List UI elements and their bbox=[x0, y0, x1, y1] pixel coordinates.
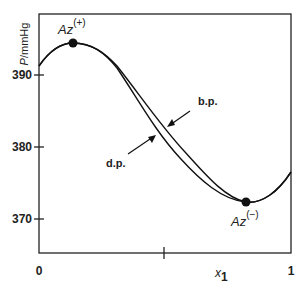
chart: 390 380 370 P/mmHg 0 1 x1 Az(+) Az(−) b.… bbox=[0, 0, 303, 289]
az-minus-label: Az(−) bbox=[230, 209, 259, 229]
y-tick-380: 380 bbox=[12, 140, 32, 154]
x-tick-1: 1 bbox=[288, 264, 295, 278]
az-plus-point bbox=[69, 39, 78, 48]
arrow-head-icon bbox=[167, 119, 175, 127]
bp-label: b.p. bbox=[198, 95, 218, 107]
dew-point-curve bbox=[39, 43, 291, 202]
az-minus-point bbox=[242, 198, 251, 207]
x-axis-label: x1 bbox=[214, 266, 228, 284]
dp-label: d.p. bbox=[106, 157, 126, 169]
dp-annotation: d.p. bbox=[106, 135, 156, 169]
y-tick-390: 390 bbox=[12, 68, 32, 82]
y-tick-370: 370 bbox=[12, 212, 32, 226]
bubble-point-curve bbox=[39, 43, 291, 202]
x-tick-0: 0 bbox=[36, 264, 43, 278]
y-axis-label: P/mmHg bbox=[18, 23, 30, 66]
az-plus-label: Az(+) bbox=[57, 17, 86, 37]
bp-annotation: b.p. bbox=[167, 95, 218, 127]
